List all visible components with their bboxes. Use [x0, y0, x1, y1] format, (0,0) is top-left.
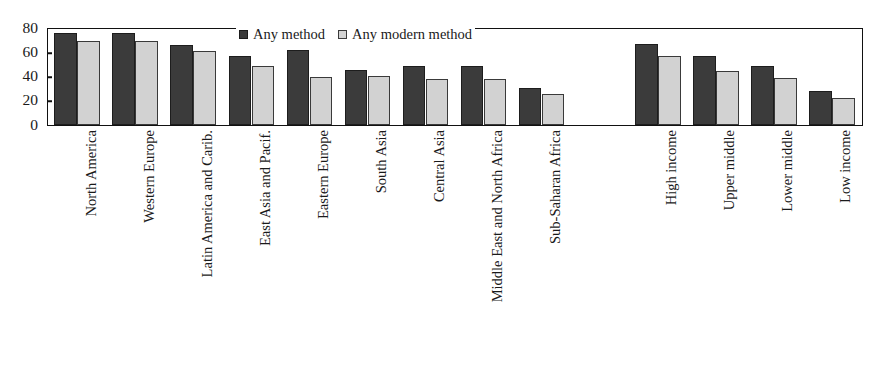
bar: [368, 76, 391, 125]
legend-label: Any modern method: [352, 27, 472, 42]
bar: [426, 79, 449, 125]
bar-group: [170, 29, 216, 125]
x-axis-label: Sub-Saharan Africa: [548, 130, 563, 244]
bar: [345, 70, 368, 125]
legend-entry: Any method: [239, 27, 325, 42]
bar-group: [403, 29, 449, 125]
x-axis-label-text: Eastern Europe: [316, 130, 331, 219]
x-axis-labels: North AmericaWestern EuropeLatin America…: [49, 130, 862, 360]
bar-group: [461, 29, 507, 125]
bar-group: [345, 29, 391, 125]
bar-chart: 020406080 Any methodAny modern method No…: [0, 0, 879, 374]
x-axis-label: High income: [664, 130, 679, 205]
x-axis-label-text: Middle East and North Africa: [490, 130, 505, 302]
bar-group: [112, 29, 158, 125]
plot-area: [47, 28, 863, 126]
bar: [54, 33, 77, 125]
bar: [809, 91, 832, 125]
bar: [774, 78, 797, 125]
bar: [751, 66, 774, 125]
bar: [635, 44, 658, 125]
y-tick-mark: [47, 101, 52, 103]
x-axis-label: North America: [84, 130, 99, 217]
x-axis-label: Lower middle: [780, 130, 795, 212]
bar-group: [577, 29, 623, 125]
y-tick-mark: [47, 77, 52, 79]
bar: [461, 66, 484, 125]
y-tick-label: 20: [23, 93, 39, 109]
x-axis-label-text: South Asia: [374, 130, 389, 193]
x-axis-label-text: North America: [84, 130, 99, 217]
bar: [658, 56, 681, 125]
x-axis-label: Western Europe: [142, 130, 157, 223]
x-axis-label: Eastern Europe: [316, 130, 331, 219]
bar-group: [693, 29, 739, 125]
dark-square-swatch: [239, 30, 248, 39]
y-tick-mark: [47, 52, 52, 54]
bar: [519, 88, 542, 125]
bar: [542, 94, 565, 125]
x-axis-label-text: High income: [664, 130, 679, 205]
x-axis-label-text: Western Europe: [142, 130, 157, 223]
bar: [287, 50, 310, 125]
bar: [832, 98, 855, 125]
bar: [170, 45, 193, 125]
y-tick-label: 40: [23, 69, 39, 85]
bars-layer: [48, 29, 862, 125]
x-axis-label: Low income: [838, 130, 853, 203]
x-axis-label-text: Lower middle: [780, 130, 795, 212]
legend-entry: Any modern method: [338, 27, 472, 42]
x-axis-label: Upper middle: [722, 130, 737, 210]
x-axis-label-text: Central Asia: [432, 130, 447, 202]
x-axis-label: South Asia: [374, 130, 389, 193]
y-tick-label: 0: [30, 117, 38, 133]
bar: [693, 56, 716, 125]
x-axis-label-text: Latin America and Carib.: [200, 130, 215, 277]
bar-group: [751, 29, 797, 125]
x-axis-label-text: Sub-Saharan Africa: [548, 130, 563, 244]
x-axis-label-text: East Asia and Pacif.: [258, 130, 273, 246]
y-tick-label: 80: [23, 20, 39, 36]
bar-group: [519, 29, 565, 125]
x-axis-label-text: Low income: [838, 130, 853, 203]
bar: [403, 66, 426, 125]
bar: [229, 56, 252, 125]
bar: [112, 33, 135, 125]
bar: [310, 77, 333, 125]
bar: [193, 51, 216, 125]
bar: [135, 41, 158, 125]
x-axis-label: Latin America and Carib.: [200, 130, 215, 277]
bar-group: [229, 29, 275, 125]
bar: [252, 66, 275, 125]
bar-group: [635, 29, 681, 125]
bar: [77, 41, 100, 125]
bar-group: [287, 29, 333, 125]
x-axis-label: Middle East and North Africa: [490, 130, 505, 302]
x-axis-label: Central Asia: [432, 130, 447, 202]
chart-legend: Any methodAny modern method: [236, 26, 475, 43]
bar: [716, 71, 739, 125]
x-axis-label: East Asia and Pacif.: [258, 130, 273, 246]
legend-label: Any method: [253, 27, 325, 42]
bar-group: [54, 29, 100, 125]
y-axis: 020406080: [0, 28, 44, 126]
y-tick-label: 60: [23, 44, 39, 60]
light-square-swatch: [338, 30, 347, 39]
x-axis-label-text: Upper middle: [722, 130, 737, 210]
bar: [484, 79, 507, 125]
bar-group: [809, 29, 855, 125]
